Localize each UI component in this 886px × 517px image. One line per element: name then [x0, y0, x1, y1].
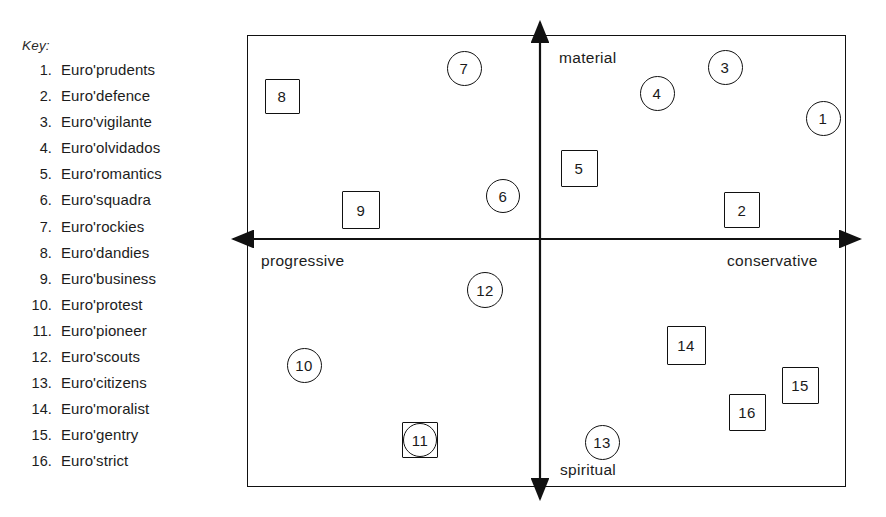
- data-point-label: 3: [721, 59, 730, 76]
- data-point-label: 9: [357, 202, 366, 219]
- data-point-marker-13[interactable]: 13: [585, 425, 620, 460]
- data-point-label: 15: [791, 377, 809, 394]
- data-point-label: 8: [278, 88, 287, 105]
- perceptual-map-diagram: material conservative progressive spirit…: [0, 0, 886, 517]
- data-point-label: 1: [819, 110, 828, 127]
- data-point-marker-14[interactable]: 14: [667, 326, 706, 365]
- data-point-marker-1[interactable]: 1: [806, 101, 841, 136]
- data-point-marker-10[interactable]: 10: [287, 348, 322, 383]
- data-point-marker-6[interactable]: 6: [486, 179, 520, 213]
- data-point-marker-5[interactable]: 5: [561, 150, 598, 187]
- data-point-label: 16: [738, 404, 756, 421]
- data-point-marker-16[interactable]: 16: [729, 394, 766, 431]
- data-point-marker-7[interactable]: 7: [447, 51, 482, 86]
- data-point-label: 12: [476, 282, 494, 299]
- data-point-marker-8[interactable]: 8: [265, 79, 300, 114]
- data-point-label: 4: [653, 85, 662, 102]
- data-point-label: 11: [412, 432, 429, 449]
- data-point-label: 5: [575, 160, 584, 177]
- axis-label-progressive: progressive: [261, 252, 344, 270]
- axis-label-conservative: conservative: [727, 252, 818, 270]
- axis-label-material: material: [559, 49, 617, 67]
- data-point-label: 10: [295, 357, 313, 374]
- data-point-label: 6: [499, 188, 508, 205]
- data-point-marker-11[interactable]: 11: [402, 422, 438, 458]
- data-point-marker-9[interactable]: 9: [342, 191, 380, 229]
- data-point-label: 2: [738, 202, 747, 219]
- axis-label-spiritual: spiritual: [560, 461, 616, 479]
- data-point-label: 7: [460, 60, 469, 77]
- data-point-label: 13: [593, 434, 611, 451]
- data-point-marker-4[interactable]: 4: [640, 76, 675, 111]
- data-point-marker-12[interactable]: 12: [467, 272, 503, 308]
- data-point-marker-3[interactable]: 3: [708, 50, 743, 85]
- data-point-marker-2[interactable]: 2: [724, 192, 760, 228]
- data-point-marker-15[interactable]: 15: [782, 367, 819, 404]
- data-point-label: 14: [677, 337, 695, 354]
